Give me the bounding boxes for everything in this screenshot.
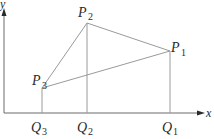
svg-text:P: P — [31, 73, 41, 88]
label-p1: P 1 — [170, 40, 186, 58]
x-axis-arrow-icon — [197, 111, 205, 116]
segment-p3-p2 — [42, 23, 87, 88]
svg-text:P: P — [77, 5, 87, 20]
svg-text:2: 2 — [88, 126, 93, 137]
svg-text:P: P — [170, 40, 180, 55]
svg-text:3: 3 — [42, 126, 47, 137]
segment-p2-p1 — [87, 23, 170, 51]
y-axis-label: y — [0, 0, 6, 11]
label-q1: Q 1 — [162, 120, 178, 137]
label-p3: P 3 — [31, 73, 47, 91]
svg-text:3: 3 — [42, 80, 47, 91]
svg-text:1: 1 — [181, 47, 186, 58]
svg-text:Q: Q — [162, 120, 172, 135]
x-axis-label: x — [205, 106, 212, 120]
label-q3: Q 3 — [31, 120, 47, 137]
segment-p3-p1 — [42, 51, 170, 88]
svg-text:2: 2 — [88, 11, 93, 22]
svg-text:Q: Q — [77, 120, 87, 135]
diagram-canvas: y x P 2 P 1 P 3 Q 3 Q 2 Q 1 — [0, 0, 214, 139]
label-p2: P 2 — [77, 5, 93, 22]
svg-text:1: 1 — [173, 126, 178, 137]
label-q2: Q 2 — [77, 120, 93, 137]
svg-text:Q: Q — [31, 120, 41, 135]
